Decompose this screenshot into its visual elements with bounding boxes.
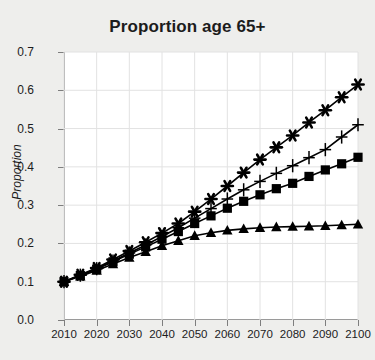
data-point-plus [254,175,266,188]
series-line-asterisk [64,85,358,282]
data-point-plus [352,118,364,131]
x-tick-mark [64,320,65,326]
x-tick-mark [293,320,294,326]
x-tick-mark [325,320,326,326]
data-point-square [288,179,297,188]
y-tick-label: 0.0 [0,313,34,327]
x-tick-mark [97,320,98,326]
x-tick-mark [358,320,359,326]
x-tick-mark [162,320,163,326]
y-tick-label: 0.7 [0,45,34,59]
data-point-square [337,159,346,168]
y-tick-label: 0.6 [0,83,34,97]
x-tick-mark [129,320,130,326]
x-tick-mark [227,320,228,326]
y-tick-label: 0.3 [0,198,34,212]
y-tick-label: 0.2 [0,236,34,250]
data-point-plus [336,130,348,143]
data-point-square [174,227,183,236]
data-point-plus [320,143,332,156]
data-point-square [353,153,362,162]
data-point-square [239,197,248,206]
data-point-square [321,165,330,174]
data-point-square [223,204,232,213]
x-tick-mark [260,320,261,326]
data-point-plus [271,167,283,180]
chart-title: Proportion age 65+ [0,17,375,37]
data-point-square [255,190,264,199]
y-tick-label: 0.5 [0,122,34,136]
data-point-square [304,172,313,181]
data-point-plus [238,183,250,196]
x-tick-label: 2100 [338,328,375,340]
y-tick-label: 0.4 [0,160,34,174]
plot-lines [64,52,358,320]
data-point-plus [303,151,315,164]
data-point-square [190,219,199,228]
x-tick-mark [195,320,196,326]
y-tick-label: 0.1 [0,275,34,289]
data-point-square [272,184,281,193]
chart-container: Proportion age 65+ Proportion 0.00.10.20… [0,0,375,360]
data-point-square [206,211,215,220]
data-point-plus [287,159,299,172]
